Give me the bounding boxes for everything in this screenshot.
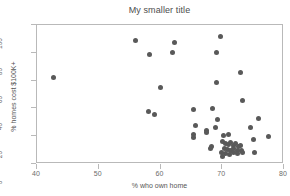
y-axis-tick-label: 100 [0, 24, 3, 64]
data-point [266, 134, 271, 139]
x-axis-tick-label: 70 [206, 170, 236, 177]
x-axis-tick-label: 40 [21, 170, 51, 177]
data-point [240, 98, 245, 103]
x-axis-tick [160, 164, 161, 169]
x-axis-tick [36, 164, 37, 169]
data-point [215, 117, 220, 122]
data-point [172, 40, 177, 45]
data-point [213, 125, 218, 130]
data-point [146, 109, 151, 114]
data-point [214, 80, 219, 85]
data-point [158, 85, 163, 90]
y-axis-tick [31, 24, 36, 25]
data-point [204, 130, 209, 135]
data-point [220, 154, 225, 159]
data-point [218, 34, 223, 39]
data-point [191, 107, 196, 112]
data-point [51, 75, 56, 80]
data-point [133, 38, 138, 43]
plot-area [37, 25, 282, 162]
x-axis-tick-label: 60 [145, 170, 175, 177]
data-point [248, 125, 253, 130]
x-axis-tick-label: 50 [83, 170, 113, 177]
y-axis-label: % homes cost $100K+ [10, 27, 17, 166]
x-axis-tick [283, 164, 284, 169]
scatter-plot-figure: My smaller title % homes cost $100K+ 020… [0, 0, 290, 196]
x-axis-tick [98, 164, 99, 169]
data-point [240, 150, 245, 155]
data-point [208, 146, 213, 151]
plot-frame [36, 24, 283, 163]
y-axis-tick [31, 135, 36, 136]
x-axis-label: % who own home [36, 182, 283, 189]
data-point [210, 106, 215, 111]
data-point [252, 150, 257, 155]
y-axis-tick [31, 107, 36, 108]
data-point [226, 132, 231, 137]
data-point [214, 50, 219, 55]
y-axis-tick [31, 52, 36, 53]
y-axis-tick [31, 80, 36, 81]
data-point [191, 135, 196, 140]
data-point [256, 116, 261, 121]
chart-title: My smaller title [36, 5, 283, 15]
data-point [251, 137, 256, 142]
data-point [238, 70, 243, 75]
data-point [152, 112, 157, 117]
x-axis-tick-label: 80 [268, 170, 290, 177]
data-point [193, 123, 198, 128]
x-axis-tick [221, 164, 222, 169]
data-point [170, 50, 175, 55]
data-point [147, 52, 152, 57]
